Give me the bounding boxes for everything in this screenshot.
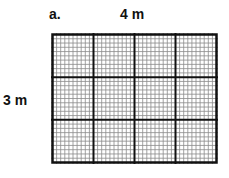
part-label: a. [49,7,61,21]
grid-rectangle [51,33,218,164]
width-dimension-label: 4 m [120,7,144,21]
height-dimension-label: 3 m [3,93,27,107]
